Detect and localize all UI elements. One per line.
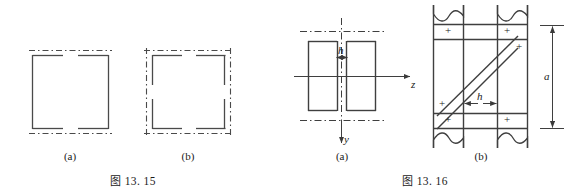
figure-caption-13-15-prefix: 图 [110, 175, 121, 188]
subfigure-label-13-16-a: (a) [327, 150, 357, 162]
rivet-mid-right-icon: + [516, 41, 522, 52]
figure-caption-13-16: 图 13. 16 [402, 172, 448, 188]
break-line-bottom-left [434, 133, 464, 148]
a-dimension-label: a [544, 70, 550, 82]
figure-13-15: (a) (b) 图 13. 15 [0, 0, 292, 194]
figure-13-16: z y h + + + + + + h a (a) (b) 图 13. 16 [292, 0, 585, 194]
rivet-bottom-right-icon: + [504, 114, 510, 125]
figure-caption-13-16-prefix: 图 [402, 175, 413, 188]
z-axis-label: z [411, 78, 415, 90]
subfigure-13-16-a-drawing [294, 18, 410, 143]
break-line-top-right [498, 5, 528, 21]
subfigure-13-15-b-drawing [144, 48, 233, 136]
h-dimension-label-b: h [477, 90, 483, 102]
rivet-mid-left-icon: + [439, 98, 445, 109]
figure-13-15-drawing [0, 0, 292, 194]
y-axis-label: y [344, 133, 349, 145]
figure-caption-13-15: 图 13. 15 [110, 172, 156, 188]
subfigure-label-13-16-b: (b) [466, 150, 496, 162]
h-dimension-label-a: h [338, 44, 344, 56]
break-line-top-left [434, 5, 464, 21]
subfigure-13-15-a-drawing [29, 51, 112, 134]
rivet-top-right-icon: + [504, 25, 510, 36]
subfigure-label-13-15-b: (b) [173, 150, 203, 162]
rivet-bottom-left-icon: + [445, 114, 451, 125]
figure-caption-13-15-number: 13. 15 [125, 175, 156, 187]
subfigure-label-13-15-a: (a) [55, 150, 85, 162]
break-line-bottom-right [498, 133, 528, 148]
figure-caption-13-16-number: 13. 16 [417, 175, 448, 187]
figure-page: (a) (b) 图 13. 15 [0, 0, 585, 194]
rivet-top-left-icon: + [445, 25, 451, 36]
